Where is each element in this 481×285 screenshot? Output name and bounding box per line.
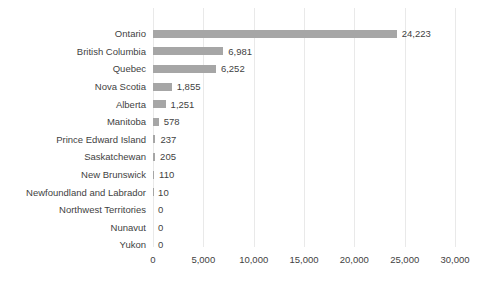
x-axis-tick-label: 15,000	[289, 254, 318, 265]
category-label: Newfoundland and Labrador	[0, 187, 146, 198]
category-label: Saskatchewan	[0, 151, 146, 162]
chart-row: Northwest Territories0	[0, 201, 481, 219]
bar-track: 24,223	[153, 30, 481, 38]
category-label: Nunavut	[0, 222, 146, 233]
bar-track: 6,252	[153, 65, 481, 73]
bar	[153, 65, 216, 73]
x-axis-tick-label: 10,000	[239, 254, 268, 265]
value-label: 0	[158, 222, 163, 233]
value-label: 10	[158, 187, 169, 198]
value-label: 6,981	[228, 46, 252, 57]
x-axis-tick-label: 20,000	[340, 254, 369, 265]
chart-row: Saskatchewan205	[0, 148, 481, 166]
bar	[153, 171, 154, 179]
value-label: 1,855	[177, 81, 201, 92]
bar	[153, 30, 397, 38]
bar-track: 205	[153, 153, 481, 161]
bar-track: 237	[153, 135, 481, 143]
chart-row: Alberta1,251	[0, 95, 481, 113]
x-axis-tick-label: 5,000	[191, 254, 215, 265]
chart-row: Quebec6,252	[0, 60, 481, 78]
bar-track: 1,251	[153, 100, 481, 108]
chart-row: Nunavut0	[0, 219, 481, 237]
category-label: British Columbia	[0, 46, 146, 57]
bar-track: 0	[153, 223, 481, 231]
value-label: 110	[159, 169, 174, 180]
bar	[153, 47, 223, 55]
x-axis-tick-label: 25,000	[390, 254, 419, 265]
category-label: Prince Edward Island	[0, 134, 146, 145]
value-label: 578	[164, 116, 180, 127]
chart-row: Nova Scotia1,855	[0, 78, 481, 96]
bar	[153, 100, 166, 108]
bar-track: 0	[153, 241, 481, 249]
chart-row: Newfoundland and Labrador10	[0, 183, 481, 201]
category-label: New Brunswick	[0, 169, 146, 180]
bar-track: 0	[153, 206, 481, 214]
value-label: 24,223	[402, 28, 431, 39]
value-label: 237	[160, 134, 176, 145]
chart-rows: Ontario24,223British Columbia6,981Quebec…	[0, 25, 481, 254]
chart-row: Manitoba578	[0, 113, 481, 131]
value-label: 205	[160, 151, 176, 162]
chart-row: Prince Edward Island237	[0, 131, 481, 149]
chart-row: Ontario24,223	[0, 25, 481, 43]
category-label: Nova Scotia	[0, 81, 146, 92]
bar	[153, 135, 155, 143]
chart-row: New Brunswick110	[0, 166, 481, 184]
category-label: Yukon	[0, 239, 146, 250]
x-axis-tick-label: 30,000	[440, 254, 469, 265]
bar	[153, 118, 159, 126]
bar	[153, 153, 155, 161]
category-label: Alberta	[0, 99, 146, 110]
chart-row: Yukon0	[0, 236, 481, 254]
chart-row: British Columbia6,981	[0, 43, 481, 61]
value-label: 0	[158, 239, 163, 250]
bar-track: 6,981	[153, 47, 481, 55]
value-label: 6,252	[221, 63, 245, 74]
bar	[153, 83, 172, 91]
value-label: 1,251	[171, 99, 195, 110]
x-axis: 05,00010,00015,00020,00025,00030,000	[0, 254, 481, 268]
x-axis-tick-label: 0	[150, 254, 155, 265]
category-label: Northwest Territories	[0, 204, 146, 215]
category-label: Quebec	[0, 63, 146, 74]
bar-chart: Ontario24,223British Columbia6,981Quebec…	[0, 0, 481, 285]
bar-track: 10	[153, 188, 481, 196]
category-label: Ontario	[0, 28, 146, 39]
category-label: Manitoba	[0, 116, 146, 127]
bar-track: 578	[153, 118, 481, 126]
bar-track: 110	[153, 171, 481, 179]
bar-track: 1,855	[153, 83, 481, 91]
value-label: 0	[158, 204, 163, 215]
